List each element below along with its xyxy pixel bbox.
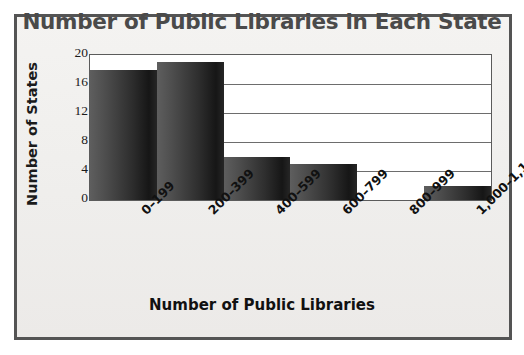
y-axis-title-text: Number of States: [24, 62, 40, 206]
y-axis-tick-label: 8: [44, 132, 88, 148]
y-axis-tick-label: 4: [44, 161, 88, 177]
x-axis-tick-label: 200–399: [205, 207, 216, 218]
x-axis-tick-label: 400–599: [272, 207, 283, 218]
x-axis-tick-label: 0–199: [138, 207, 149, 218]
y-axis-tick-label: 12: [44, 103, 88, 119]
x-axis-tick-label: 1,000–1,199: [473, 207, 484, 218]
y-axis-tick-label: 20: [44, 45, 88, 61]
x-axis-tick-label: 800–999: [406, 207, 417, 218]
chart-figure: Number of Public Libraries in Each State…: [0, 0, 524, 355]
y-axis-tick-label: 0: [44, 190, 88, 206]
bar: [90, 70, 157, 201]
x-axis-tick-label: 600–799: [339, 207, 350, 218]
x-axis-title: Number of Public Libraries: [0, 296, 524, 314]
y-axis-title: Number of States: [22, 54, 42, 214]
bar-series: [90, 55, 491, 200]
x-axis-tick-labels: 0–199200–399400–599600–799800–9991,000–1…: [89, 201, 492, 291]
plot-area: [89, 54, 492, 201]
y-axis-tick-label: 16: [44, 74, 88, 90]
